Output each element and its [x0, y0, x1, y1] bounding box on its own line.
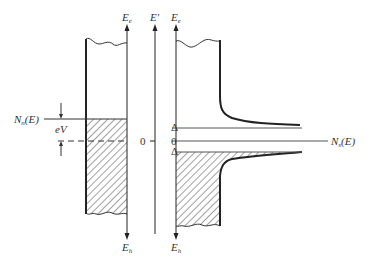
left-axis-down-arrow-icon	[125, 233, 130, 240]
right-dos-label: Ns(E)	[330, 135, 355, 149]
center-axis-group: E′ 0	[140, 11, 160, 234]
center-axis-label: E′	[149, 11, 160, 23]
left-dos-label: Nn(E)	[13, 113, 39, 127]
gap-upper-delta-label: Δ	[171, 121, 178, 133]
left-bottom-axis-label: Eh	[121, 241, 133, 255]
left-wavy-top	[86, 38, 127, 45]
right-filled-states	[176, 152, 302, 226]
left-top-axis-label: Ee	[121, 11, 132, 25]
right-axis-up-arrow-icon	[174, 24, 179, 31]
left-filled-states	[86, 119, 127, 214]
ev-arrow-top-head-icon	[59, 114, 63, 119]
ev-arrow-bottom-head-icon	[59, 141, 63, 146]
right-axis-down-arrow-icon	[174, 233, 179, 240]
right-bottom-axis-label: Eh	[170, 241, 182, 255]
gap-lower-delta-label: Δ	[171, 145, 178, 157]
right-top-axis-label: Ee	[170, 11, 181, 25]
tunneling-diagram: Ee Eh Nn(E) eV E′ 0	[0, 0, 370, 259]
right-wavy-top	[176, 39, 220, 47]
left-panel: Ee Eh Nn(E) eV	[13, 11, 133, 255]
center-zero-label: 0	[140, 135, 146, 147]
center-axis-up-arrow-icon	[153, 24, 158, 31]
right-panel: Ee Eh Δ 0 Δ Ns(E)	[170, 11, 355, 255]
right-lower-dos-curve	[220, 152, 302, 226]
bias-ev-label: eV	[55, 123, 68, 135]
left-axis-up-arrow-icon	[125, 24, 130, 31]
right-upper-dos-curve	[220, 40, 300, 125]
